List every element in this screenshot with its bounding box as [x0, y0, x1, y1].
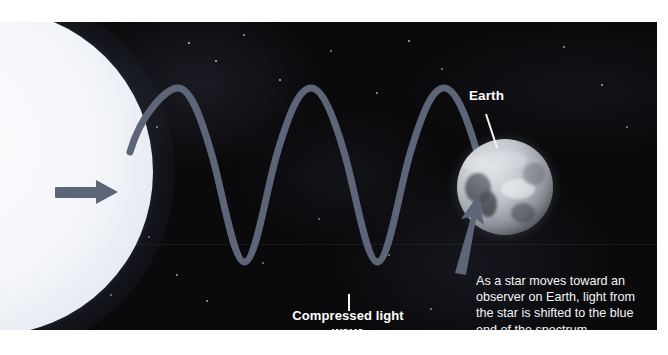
- earth-label: Earth: [469, 88, 504, 103]
- compressed-light-wave-label: Compressed light wave: [292, 308, 404, 330]
- blueshift-diagram: Earth Compressed light wave As a star mo…: [0, 0, 668, 355]
- light-direction-arrow: [428, 177, 518, 287]
- caption-text: As a star moves toward an observer on Ea…: [476, 273, 648, 330]
- space-background: Earth Compressed light wave As a star mo…: [0, 22, 657, 330]
